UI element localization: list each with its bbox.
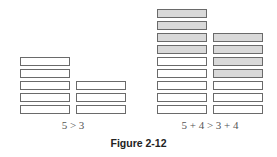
unit-bar — [157, 93, 207, 102]
added-unit-bar — [157, 21, 207, 30]
unit-bar — [20, 69, 70, 78]
unit-bar — [157, 69, 207, 78]
added-unit-bar — [213, 69, 263, 78]
unit-bar — [76, 93, 126, 102]
caption-panel-2: 5 + 4 > 3 + 4 — [157, 119, 263, 131]
unit-bar — [157, 57, 207, 66]
added-unit-bar — [157, 45, 207, 54]
unit-bar — [213, 93, 263, 102]
unit-bar — [20, 105, 70, 114]
unit-bar — [76, 105, 126, 114]
unit-bar — [157, 81, 207, 90]
unit-bar — [157, 105, 207, 114]
added-unit-bar — [213, 45, 263, 54]
unit-bar — [20, 93, 70, 102]
added-unit-bar — [213, 57, 263, 66]
unit-bar — [20, 81, 70, 90]
unit-bar — [76, 81, 126, 90]
added-unit-bar — [213, 33, 263, 42]
unit-bar — [213, 105, 263, 114]
unit-bar — [20, 57, 70, 66]
added-unit-bar — [157, 9, 207, 18]
caption-panel-1: 5 > 3 — [20, 119, 126, 131]
figure-label: Figure 2-12 — [0, 137, 277, 149]
unit-bar — [213, 81, 263, 90]
added-unit-bar — [157, 33, 207, 42]
